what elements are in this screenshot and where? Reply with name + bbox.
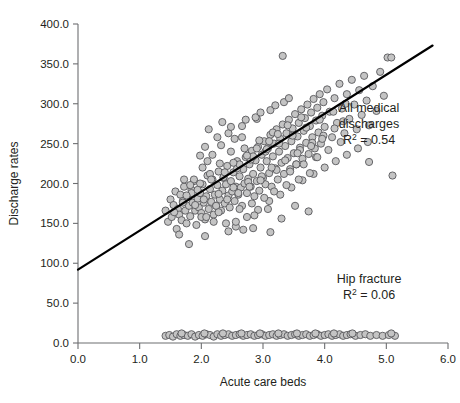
data-point [330,330,337,337]
y-axis-tick-label: 0.0 [53,337,69,349]
data-point [201,233,208,240]
data-point [343,151,350,158]
data-point [236,173,243,180]
x-axis-tick-label: 0.0 [70,353,86,365]
data-point [246,183,253,190]
data-point [214,134,221,141]
scatter-plot-figure: 0.050.0100.0150.0200.0250.0300.0350.0400… [0,0,460,403]
annotation-all-medical-discharges: All medicaldischargesR2 = 0.54 [339,101,399,147]
data-point [291,202,298,209]
data-point [219,330,226,337]
x-axis-title: Acute care beds [220,375,307,389]
data-point [201,330,208,337]
data-point [365,158,372,165]
data-point [274,130,281,137]
data-point [227,148,234,155]
data-point [349,330,356,337]
data-point [226,204,233,211]
data-point [225,228,232,235]
annotation-line: All medical [339,101,399,115]
y-axis-tick-label: 250.0 [40,138,69,150]
x-axis-tick-label: 3.0 [255,353,271,365]
data-point [243,213,250,220]
data-point [293,161,300,168]
data-point [282,157,289,164]
data-point [266,138,273,145]
data-point [321,164,328,171]
data-point [348,76,355,83]
data-point [325,146,332,153]
data-point [275,330,282,337]
data-point [187,181,194,188]
data-point [298,114,305,121]
data-point [219,118,226,125]
data-point [227,123,234,130]
data-point [242,116,249,123]
data-point [180,176,187,183]
data-point [278,215,285,222]
data-point [201,143,208,150]
data-point [388,54,395,61]
data-point [300,161,307,168]
data-point [285,95,292,102]
data-point [271,188,278,195]
data-point [319,135,326,142]
data-point [275,148,282,155]
data-point [256,187,263,194]
data-point [264,205,271,212]
data-point [238,134,245,141]
y-axis-tick-label: 100.0 [40,257,69,269]
data-point [222,220,229,227]
data-point [183,192,190,199]
data-point [331,125,338,132]
y-axis-tick-label: 400.0 [40,18,69,30]
y-axis-tick-label: 350.0 [40,58,69,70]
data-point [178,330,185,337]
data-point [204,158,211,165]
data-point [208,176,215,183]
data-point [308,109,315,116]
data-point [230,159,237,166]
data-point [294,150,301,157]
data-point [279,52,286,59]
data-point [250,225,257,232]
data-point [250,170,257,177]
annotation-r-squared: R2 = 0.06 [343,287,395,302]
data-point [308,142,315,149]
data-point [388,330,395,337]
data-point [261,194,268,201]
data-point [200,196,207,203]
data-point [248,200,255,207]
data-point [251,212,258,219]
data-point [343,91,350,98]
chart-canvas: 0.050.0100.0150.0200.0250.0300.0350.0400… [0,0,460,403]
x-axis-tick-label: 4.0 [317,353,333,365]
data-point [272,102,279,109]
data-point [336,80,343,87]
data-point [314,104,321,111]
data-point [215,190,222,197]
annotation-line: Hip fracture [337,272,402,286]
data-point [389,172,396,179]
data-point [224,196,231,203]
data-point [269,153,276,160]
y-axis-tick-label: 300.0 [40,98,69,110]
data-point [274,176,281,183]
data-point [231,135,238,142]
x-axis-tick-label: 2.0 [193,353,209,365]
data-point [306,170,313,177]
data-point [209,151,216,158]
data-point [241,145,248,152]
data-point [256,137,263,144]
y-axis-title: Discharge rates [7,141,21,225]
data-point [205,126,212,133]
data-point [305,208,312,215]
data-point [263,158,270,165]
data-point [312,330,319,337]
data-point [321,123,328,130]
data-point [332,158,339,165]
data-point [210,218,217,225]
data-point [240,226,247,233]
data-point [257,109,264,116]
data-point [236,205,243,212]
